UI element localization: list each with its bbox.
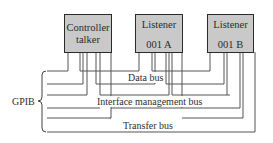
transfer-bus-label: Transfer bus bbox=[121, 120, 175, 131]
device-label-line2: 001 A bbox=[136, 39, 182, 51]
listener-001b-box: Listener 001 B bbox=[207, 14, 254, 53]
gpib-label: GPIB bbox=[10, 96, 37, 107]
device-label-line1: Controller bbox=[65, 22, 111, 34]
device-label-line1: Listener bbox=[208, 19, 253, 31]
device-label-line1: Listener bbox=[136, 19, 182, 31]
listener-001a-box: Listener 001 A bbox=[135, 14, 183, 53]
device-label-line2: 001 B bbox=[208, 39, 253, 51]
interface-management-bus-label: Interface management bus bbox=[95, 96, 205, 107]
wire bbox=[47, 52, 68, 71]
wire bbox=[152, 52, 210, 71]
controller-talker-box: Controller talker bbox=[64, 14, 112, 53]
wire bbox=[80, 52, 139, 71]
data-bus-label: Data bus bbox=[126, 72, 165, 83]
device-label-line2: talker bbox=[65, 34, 111, 46]
